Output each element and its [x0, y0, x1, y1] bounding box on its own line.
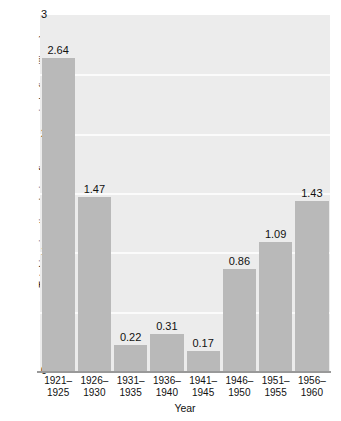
- bar-value-label: 0.22: [107, 331, 154, 343]
- x-axis-line: [37, 371, 331, 373]
- bar[interactable]: [78, 197, 111, 371]
- x-tick-label-line: 1951–: [258, 375, 294, 387]
- x-tick-label-line: 1925: [40, 387, 76, 399]
- bar[interactable]: [295, 201, 328, 371]
- x-tick-label-line: 1955: [258, 387, 294, 399]
- bars-layer: 2.641.470.220.310.170.861.091.43: [40, 15, 330, 371]
- x-tick-label-line: 1936–: [149, 375, 185, 387]
- x-tick-label: 1921–1925: [40, 375, 76, 399]
- x-tick-label: 1926–1930: [76, 375, 112, 399]
- bar-value-label: 1.47: [71, 183, 118, 195]
- bar[interactable]: [187, 351, 220, 371]
- bar-value-label: 2.64: [35, 44, 82, 56]
- bar-value-label: 0.31: [143, 320, 190, 332]
- bar-group: 1.43: [295, 15, 328, 371]
- bar-value-label: 1.09: [252, 228, 299, 240]
- x-tick-label: 1946–1950: [221, 375, 257, 399]
- bar-group: 0.31: [150, 15, 183, 371]
- x-tick-label-line: 1960: [294, 387, 330, 399]
- x-tick-label-line: 1921–: [40, 375, 76, 387]
- x-tick-label: 1941–1945: [185, 375, 221, 399]
- x-tick-label: 1936–1940: [149, 375, 185, 399]
- bar-group: 1.09: [259, 15, 292, 371]
- x-tick-label: 1951–1955: [258, 375, 294, 399]
- x-tick-label: 1956–1960: [294, 375, 330, 399]
- x-tick-label-line: 1935: [113, 387, 149, 399]
- bar-value-label: 1.43: [288, 187, 335, 199]
- bar-value-label: 0.86: [216, 255, 263, 267]
- bar-group: 0.86: [223, 15, 256, 371]
- x-tick-label-line: 1926–: [76, 375, 112, 387]
- bar[interactable]: [42, 58, 75, 371]
- x-tick-label-line: 1941–: [185, 375, 221, 387]
- bar[interactable]: [150, 334, 183, 371]
- x-tick-label-line: 1945: [185, 387, 221, 399]
- x-tick-label-line: 1940: [149, 387, 185, 399]
- bar-group: 2.64: [42, 15, 75, 371]
- bar-group: 0.22: [114, 15, 147, 371]
- bar[interactable]: [259, 242, 292, 371]
- bar-value-label: 0.17: [180, 337, 227, 349]
- x-tick-label: 1931–1935: [113, 375, 149, 399]
- x-axis-ticks: 1921–19251926–19301931–19351936–19401941…: [40, 375, 330, 405]
- x-tick-label-line: 1931–: [113, 375, 149, 387]
- bar[interactable]: [114, 345, 147, 371]
- immigration-bar-chart: Total immigration during five-year perio…: [0, 0, 341, 421]
- x-axis-title: Year: [40, 402, 330, 414]
- bar-group: 1.47: [78, 15, 111, 371]
- bar[interactable]: [223, 269, 256, 371]
- bar-group: 0.17: [187, 15, 220, 371]
- x-tick-label-line: 1950: [221, 387, 257, 399]
- x-tick-label-line: 1956–: [294, 375, 330, 387]
- x-tick-label-line: 1930: [76, 387, 112, 399]
- x-tick-label-line: 1946–: [221, 375, 257, 387]
